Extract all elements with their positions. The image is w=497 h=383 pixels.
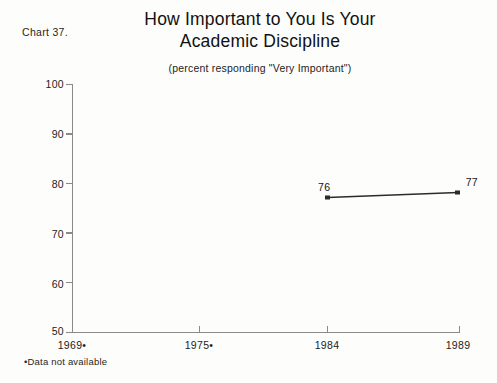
data-marker-1984 <box>325 196 330 200</box>
footnote-data-not-available: •Data not available <box>24 356 107 367</box>
chart-container: Chart 37. How Important to You Is Your A… <box>0 0 497 383</box>
plot-area <box>0 0 497 383</box>
data-series-line <box>328 193 459 198</box>
data-marker-1989 <box>455 191 460 195</box>
